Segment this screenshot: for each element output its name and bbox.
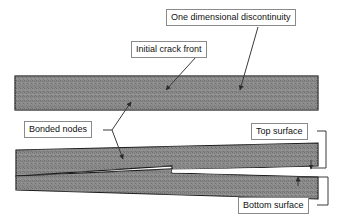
callout-bottom-surface: Bottom surface — [238, 197, 309, 214]
side-view-group — [16, 143, 318, 199]
plan-view-bar-texture-overlay — [15, 76, 318, 110]
callout-bonded-nodes: Bonded nodes — [24, 121, 92, 138]
callout-initial-crack-front: Initial crack front — [131, 41, 207, 58]
plan-view-group — [15, 76, 318, 110]
figure-canvas: One dimensional discontinuity Initial cr… — [0, 0, 338, 221]
diagram-graphics — [0, 0, 338, 221]
callout-one-dimensional-discontinuity: One dimensional discontinuity — [166, 9, 296, 26]
callout-top-surface: Top surface — [251, 123, 308, 140]
